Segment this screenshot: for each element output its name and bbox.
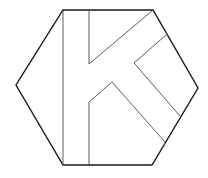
logo-canvas bbox=[0, 0, 208, 178]
hexagon-k-logo-icon bbox=[0, 0, 208, 178]
hexagon-outline bbox=[16, 10, 198, 165]
